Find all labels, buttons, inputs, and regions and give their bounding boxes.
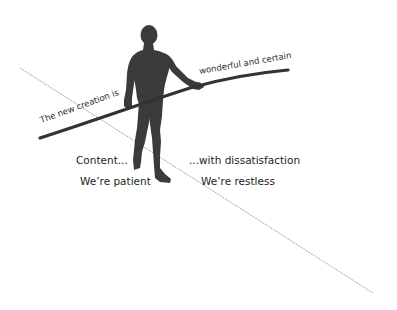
tightrope-diagram: The new creation is wonderful and certai…: [0, 0, 397, 310]
label-content: Content...: [76, 154, 128, 166]
label-were-patient: We’re patient: [80, 175, 151, 187]
left-leg: [133, 102, 151, 170]
label-were-restless: We’re restless: [201, 175, 275, 187]
label-with-dissatisfaction: ...with dissatisfaction: [189, 154, 300, 166]
right-leg: [149, 100, 171, 183]
head: [141, 25, 158, 45]
